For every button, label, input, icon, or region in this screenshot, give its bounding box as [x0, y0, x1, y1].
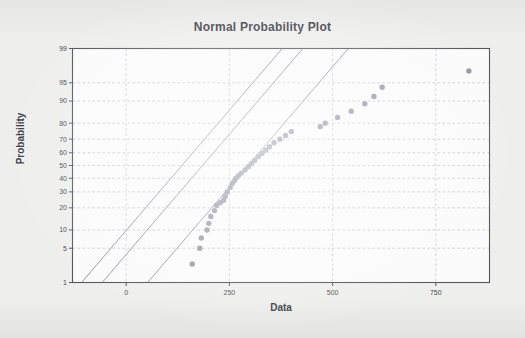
data-point — [466, 68, 471, 73]
data-point — [197, 246, 202, 251]
svg-text:99: 99 — [59, 45, 67, 52]
x-axis-title: Data — [72, 302, 490, 313]
data-point — [379, 85, 384, 90]
data-point — [199, 235, 204, 240]
y-axis-tick-labels: 999590807060504030201051 — [59, 45, 67, 286]
svg-text:5: 5 — [63, 245, 67, 252]
data-point — [362, 101, 367, 106]
svg-text:90: 90 — [59, 97, 67, 104]
data-point — [208, 214, 213, 219]
data-point — [277, 136, 282, 141]
plot-canvas: 999590807060504030201051 0250500750 — [0, 0, 525, 338]
svg-text:0: 0 — [124, 289, 128, 296]
data-point — [318, 124, 323, 129]
svg-text:80: 80 — [59, 120, 67, 127]
data-point — [289, 129, 294, 134]
normal-probability-plot-figure: Normal Probability Plot 9995908070605040… — [0, 0, 525, 338]
data-point — [206, 221, 211, 226]
svg-text:70: 70 — [59, 136, 67, 143]
svg-text:60: 60 — [59, 149, 67, 156]
data-point — [322, 120, 327, 125]
data-point — [204, 227, 209, 232]
data-point — [267, 144, 272, 149]
data-point — [283, 133, 288, 138]
plot-panel — [73, 49, 490, 283]
svg-text:250: 250 — [224, 289, 236, 296]
data-point — [212, 208, 217, 213]
data-point — [371, 94, 376, 99]
svg-text:50: 50 — [59, 162, 67, 169]
x-axis-tick-labels: 0250500750 — [124, 289, 442, 296]
data-point — [335, 115, 340, 120]
svg-text:10: 10 — [59, 226, 67, 233]
svg-text:20: 20 — [59, 204, 67, 211]
y-axis-title: Probability — [15, 99, 26, 179]
svg-text:500: 500 — [327, 289, 339, 296]
data-point — [190, 261, 195, 266]
data-point — [348, 108, 353, 113]
screenshot-root: Normal Probability Plot 9995908070605040… — [0, 0, 525, 338]
svg-text:750: 750 — [430, 289, 442, 296]
svg-text:95: 95 — [59, 79, 67, 86]
svg-text:30: 30 — [59, 188, 67, 195]
svg-text:40: 40 — [59, 175, 67, 182]
data-point — [271, 140, 276, 145]
svg-text:1: 1 — [63, 279, 67, 286]
